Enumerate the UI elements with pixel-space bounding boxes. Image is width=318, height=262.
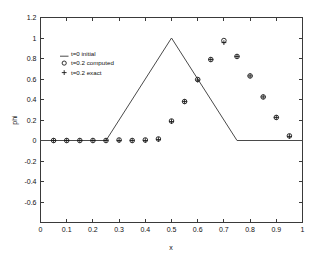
y-tick-label: -0.6	[24, 199, 36, 206]
x-tick-label: 0.5	[167, 226, 177, 233]
y-tick-label: 0.6	[27, 76, 37, 83]
x-axis-label: x	[169, 244, 173, 251]
x-tick-label: 0.3	[114, 226, 124, 233]
y-tick-label: 1	[33, 35, 37, 42]
y-tick-label: 0.2	[27, 117, 37, 124]
x-tick-label: 1	[301, 226, 305, 233]
figure-canvas: 00.10.20.30.40.50.60.70.80.91 -0.6-0.4-0…	[0, 0, 318, 262]
y-tick-label: 0.4	[27, 96, 37, 103]
x-tick-label: 0	[39, 226, 43, 233]
x-tick-label: 0.4	[140, 226, 150, 233]
plot-svg: 00.10.20.30.40.50.60.70.80.91 -0.6-0.4-0…	[0, 0, 318, 262]
y-tick-label: 0.8	[27, 55, 37, 62]
x-tick-label: 0.7	[219, 226, 229, 233]
legend-label: t=0.2 computed	[71, 59, 114, 66]
x-tick-label: 0.2	[88, 226, 98, 233]
x-tick-label: 0.6	[193, 226, 203, 233]
x-tick-label: 0.9	[271, 226, 281, 233]
x-tick-label: 0.1	[62, 226, 72, 233]
y-tick-label: 1.2	[27, 14, 37, 21]
y-axis-label: phi	[11, 115, 19, 125]
legend-label: t=0.2 exact	[71, 69, 102, 76]
legend-label: t=0 initial	[71, 50, 96, 57]
y-tick-label: 0	[33, 137, 37, 144]
x-tick-label: 0.8	[245, 226, 255, 233]
y-tick-label: -0.2	[24, 158, 36, 165]
y-tick-label: -0.4	[24, 178, 36, 185]
